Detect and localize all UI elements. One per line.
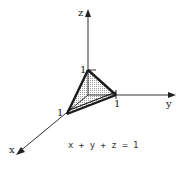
z-arrow-icon [85, 9, 91, 17]
z-intercept-label: 1 [80, 64, 86, 75]
diagram-canvas: z y x 1 1 1 x + y + z = 1 [0, 0, 183, 173]
x-intercept-label: 1 [57, 107, 63, 118]
y-intercept-label: 1 [114, 98, 120, 109]
plane-triangle-fill [67, 70, 116, 114]
y-axis-label: y [165, 98, 172, 109]
x-axis-label: x [9, 144, 15, 155]
z-axis-label: z [78, 7, 83, 18]
equation-label: x + y + z = 1 [68, 140, 138, 150]
